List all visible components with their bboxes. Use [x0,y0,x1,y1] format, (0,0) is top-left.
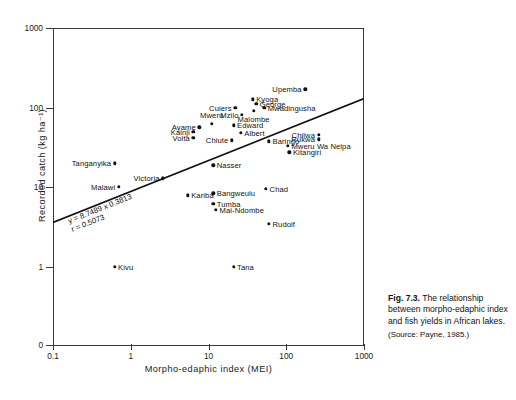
y-tick-100 [46,108,53,109]
data-point-label: Ayame [172,123,196,132]
data-point-label: Albert [244,129,264,138]
x-tick-label-10: 10 [204,351,213,361]
x-tick-0.1 [53,344,54,350]
y-axis-title: Recorded catch (kg ha⁻¹) [36,51,47,281]
data-point-label: Upemba [272,85,301,94]
x-tick-label-0.1: 0.1 [47,351,59,361]
y-tick-1 [46,267,53,268]
data-point-label: Victoria [134,174,160,183]
y-tick-10 [46,187,53,188]
data-point-label: Cuiers [209,103,232,112]
data-point-label: Nasser [217,161,242,170]
x-tick-1000 [364,344,365,350]
data-point-label: Bangweulu [217,189,255,198]
y-tick-0 [46,345,53,346]
data-point-label: Chiute [206,136,229,145]
data-point-label: Kivu [118,263,133,272]
x-tick-1 [131,344,132,350]
data-point-label: Kariba [191,191,214,200]
data-point-label: Mwadingusha [268,103,316,112]
y-tick-1000 [46,28,53,29]
data-point-label: Malawi [91,182,115,191]
data-point-label: Chad [270,185,289,194]
figure-caption: Fig. 7.3. The relationship between morph… [388,293,512,340]
data-point-label: Tanganyika [72,159,111,168]
y-axis-title-wrap: Recorded catch (kg ha⁻¹) [0,0,40,340]
data-point-label: Kitangiri [293,148,321,157]
x-tick-100 [286,344,287,350]
data-point-label: Malombe [238,115,270,124]
data-point-label: Rudolf [273,219,296,228]
x-tick-label-100: 100 [279,351,293,361]
caption-figure-number: Fig. 7.3. [388,293,420,303]
data-point-label: Mai-Ndombe [220,205,264,214]
caption-source: (Source: Payne, 1985.) [388,330,512,340]
figure-7-3: 01101001000 0.11101001000 Recorded catch… [0,0,516,400]
x-axis-title: Morpho-edaphic index (MEI) [53,364,364,374]
x-tick-10 [209,344,210,350]
data-point-label: Tana [237,263,254,272]
x-tick-label-1: 1 [128,351,133,361]
y-tick-label-0: 0 [38,340,43,350]
x-tick-label-1000: 1000 [355,351,373,361]
